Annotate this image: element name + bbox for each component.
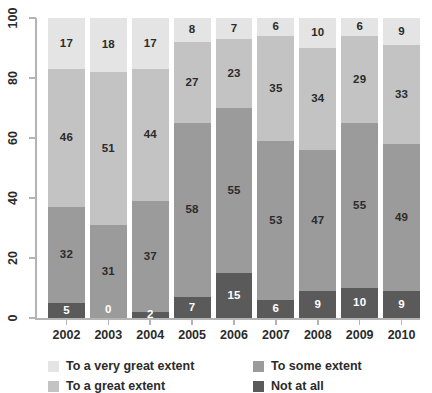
y-tick-label: 80 <box>6 71 20 85</box>
legend-item[interactable]: Not at all <box>253 379 424 393</box>
legend-label: To a great extent <box>66 379 165 393</box>
bar-segment[interactable]: 27 <box>174 42 211 123</box>
bar-segment-value: 8 <box>189 24 196 36</box>
bar-segment[interactable]: 32 <box>48 207 85 303</box>
bar-segment[interactable]: 46 <box>48 69 85 207</box>
bar-segment[interactable]: 47 <box>299 150 336 291</box>
legend-swatch-icon <box>48 381 59 392</box>
bar-segment[interactable]: 51 <box>90 72 127 225</box>
legend-label: To a very great extent <box>66 359 194 373</box>
bar-segment-value: 51 <box>102 143 115 155</box>
bar-segment-value: 49 <box>395 212 408 224</box>
bar-segment[interactable]: 15 <box>216 273 253 318</box>
bar-segment-value: 7 <box>231 23 238 35</box>
bar-segment[interactable]: 44 <box>132 69 169 201</box>
bar-segment[interactable]: 9 <box>383 18 420 45</box>
bar-segment[interactable]: 2 <box>132 312 169 318</box>
bar-segment-value: 31 <box>102 266 115 278</box>
bar-segment[interactable]: 5 <box>48 303 85 318</box>
bar-segment-value: 37 <box>144 251 157 263</box>
bar-segment[interactable]: 6 <box>257 18 294 36</box>
legend-item[interactable]: To a great extent <box>48 379 253 393</box>
legend-label: Not at all <box>271 379 324 393</box>
bar-column-2008[interactable]: 1034479 <box>299 18 336 318</box>
bar-column-2009[interactable]: 6295510 <box>341 18 378 318</box>
bar-segment-value: 7 <box>189 302 196 314</box>
bar-segment-value: 6 <box>356 21 363 33</box>
x-tick-mark <box>233 319 235 325</box>
legend-item[interactable]: To some extent <box>253 359 424 373</box>
x-tick-mark <box>191 319 193 325</box>
bar-segment[interactable]: 49 <box>383 144 420 291</box>
bar-segment[interactable]: 33 <box>383 45 420 144</box>
y-tick-mark <box>29 77 36 79</box>
bar-segment[interactable]: 8 <box>174 18 211 42</box>
bar-segment[interactable]: 6 <box>341 18 378 36</box>
bar-segment-value: 9 <box>398 26 405 38</box>
bar-segment[interactable]: 10 <box>299 18 336 48</box>
bar-segment[interactable]: 7 <box>174 297 211 318</box>
legend-swatch-icon <box>253 381 264 392</box>
bar-segment[interactable]: 6 <box>257 300 294 318</box>
bar-segment[interactable]: 34 <box>299 48 336 150</box>
x-tick-mark <box>275 319 277 325</box>
legend-item[interactable]: To a very great extent <box>48 359 253 373</box>
bar-column-2002[interactable]: 1746325 <box>48 18 85 318</box>
bar-segment-value: 23 <box>227 68 240 80</box>
bar-segment-value: 6 <box>273 303 280 315</box>
x-tick-mark <box>359 319 361 325</box>
bar-segment-value: 34 <box>311 93 324 105</box>
bar-segment[interactable]: 18 <box>90 18 127 72</box>
plot-area: 1746325185131017443728275877235515635536… <box>48 18 420 318</box>
bar-segment-value: 44 <box>144 129 157 141</box>
legend-swatch-icon <box>253 361 264 372</box>
bar-column-2006[interactable]: 7235515 <box>216 18 253 318</box>
bar-segment[interactable]: 55 <box>341 123 378 288</box>
bar-segment-value: 46 <box>60 132 73 144</box>
bar-segment[interactable]: 37 <box>132 201 169 312</box>
x-axis-label: 2005 <box>174 328 211 342</box>
x-axis-label: 2006 <box>216 328 253 342</box>
bar-segment-value: 6 <box>273 21 280 33</box>
bar-segment[interactable]: 53 <box>257 141 294 300</box>
bar-segment[interactable]: 9 <box>299 291 336 318</box>
bar-segment[interactable]: 35 <box>257 36 294 141</box>
x-axis-label: 2009 <box>341 328 378 342</box>
bar-column-2007[interactable]: 635536 <box>257 18 294 318</box>
x-axis-label: 2010 <box>383 328 420 342</box>
x-axis-label: 2008 <box>299 328 336 342</box>
bar-column-2004[interactable]: 1744372 <box>132 18 169 318</box>
x-axis-label: 2003 <box>90 328 127 342</box>
bar-segment[interactable]: 9 <box>383 291 420 318</box>
bar-segment[interactable]: 10 <box>341 288 378 318</box>
bar-segment-value: 2 <box>147 309 154 321</box>
legend-label: To some extent <box>271 359 362 373</box>
x-tick-mark <box>401 319 403 325</box>
bar-segment[interactable]: 7 <box>216 18 253 39</box>
bar-segment[interactable]: 17 <box>48 18 85 69</box>
bar-segment[interactable]: 55 <box>216 108 253 273</box>
y-tick-label: 20 <box>6 251 20 265</box>
bar-column-2010[interactable]: 933499 <box>383 18 420 318</box>
y-tick-label: 100 <box>6 8 20 29</box>
bar-column-2005[interactable]: 827587 <box>174 18 211 318</box>
bar-segment[interactable]: 17 <box>132 18 169 69</box>
bar-segment[interactable]: 29 <box>341 36 378 123</box>
bar-segment-value: 10 <box>311 27 324 39</box>
x-axis-label: 2002 <box>48 328 85 342</box>
bar-segment-value: 17 <box>144 38 157 50</box>
x-axis-line <box>35 318 420 320</box>
bar-segment-value: 35 <box>269 83 282 95</box>
bar-segment-value: 0 <box>105 304 112 316</box>
y-tick-label: 40 <box>6 191 20 205</box>
bar-segment-value: 58 <box>186 204 199 216</box>
bar-segment-value: 32 <box>60 249 73 261</box>
bar-segment-value: 9 <box>314 299 321 311</box>
y-tick-mark <box>29 257 36 259</box>
stacked-bar-chart: 020406080100 174632518513101744372827587… <box>0 0 432 393</box>
bar-segment[interactable]: 58 <box>174 123 211 297</box>
bar-column-2003[interactable]: 1851310 <box>90 18 127 318</box>
bar-segment-value: 53 <box>269 215 282 227</box>
bar-segment[interactable]: 23 <box>216 39 253 108</box>
y-tick-mark <box>29 317 36 319</box>
